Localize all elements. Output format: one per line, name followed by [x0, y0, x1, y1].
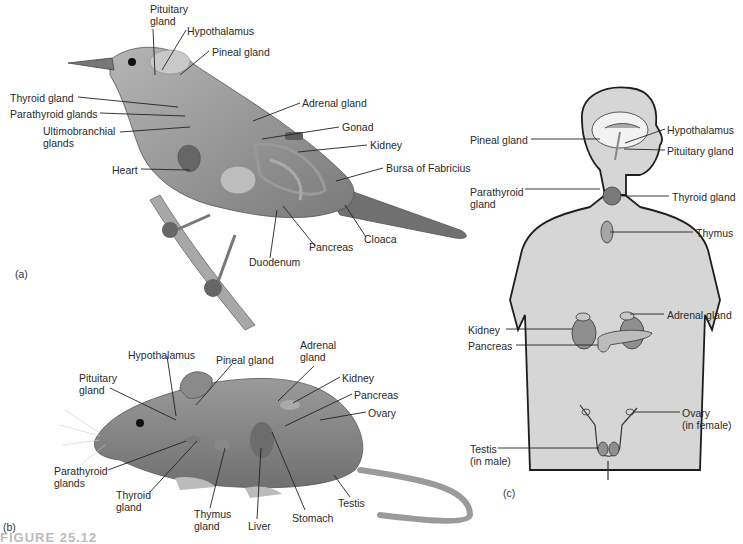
bird-label-adrenal: Adrenal gland [302, 97, 367, 109]
bird-label-hypothalamus: Hypothalamus [187, 25, 254, 37]
mouse-label-stomach: Stomach [292, 512, 333, 524]
bird-label-parathyroid: Parathyroid glands [10, 108, 98, 120]
bird-label-ultimobranchial: Ultimobranchial glands [43, 125, 115, 149]
bird-label-heart: Heart [112, 164, 138, 176]
bird-label-bursa: Bursa of Fabricius [386, 162, 471, 174]
mouse-label-pituitary: Pituitary gland [79, 372, 117, 396]
human-label-pineal: Pineal gland [470, 134, 528, 146]
human-label-kidney: Kidney [468, 324, 500, 336]
human-label-adrenal: Adrenal gland [667, 309, 732, 321]
bird-label-kidney: Kidney [370, 139, 402, 151]
human-label-thymus: Thymus [696, 227, 733, 239]
mouse-label-hypothalamus: Hypothalamus [128, 349, 195, 361]
mouse-label-kidney: Kidney [342, 372, 374, 384]
mouse-label-thyroid: Thyroid gland [116, 489, 151, 513]
human-label-parathyroid: Parathyroid gland [470, 186, 524, 210]
mouse-label-thymus: Thymus gland [194, 508, 231, 532]
bird-label-duodenum: Duodenum [249, 256, 300, 268]
human-label-pituitary: Pituitary gland [667, 145, 734, 157]
human-label-ovary: Ovary (in female) [682, 407, 732, 431]
mouse-label-ovary: Ovary [368, 407, 396, 419]
panel-label-a: (a) [15, 268, 28, 280]
illustrations [0, 0, 743, 544]
bird-label-gonad: Gonad [342, 121, 374, 133]
bird-label-cloaca: Cloaca [364, 233, 397, 245]
bird-illustration [68, 47, 466, 330]
mouse-label-liver: Liver [248, 520, 271, 532]
human-label-testis: Testis (in male) [470, 443, 511, 467]
figure-caption: FIGURE 25.12 [0, 530, 97, 544]
mouse-label-adrenal: Adrenal gland [300, 339, 336, 363]
panel-label-c: (c) [503, 487, 515, 499]
bird-label-pineal: Pineal gland [212, 46, 270, 58]
mouse-label-pancreas: Pancreas [354, 389, 398, 401]
mouse-label-pineal: Pineal gland [216, 354, 274, 366]
bird-label-thyroid: Thyroid gland [10, 92, 74, 104]
bird-label-pancreas: Pancreas [309, 241, 353, 253]
mouse-label-testis: Testis [338, 497, 365, 509]
human-label-hypothalamus: Hypothalamus [667, 124, 734, 136]
human-label-pancreas: Pancreas [468, 340, 512, 352]
human-label-thyroid: Thyroid gland [672, 191, 736, 203]
endocrine-figure: Pituitary gland Hypothalamus Pineal glan… [0, 0, 743, 544]
mouse-label-parathyroid: Parathyroid glands [54, 465, 108, 489]
bird-label-pituitary: Pituitary gland [150, 3, 188, 27]
